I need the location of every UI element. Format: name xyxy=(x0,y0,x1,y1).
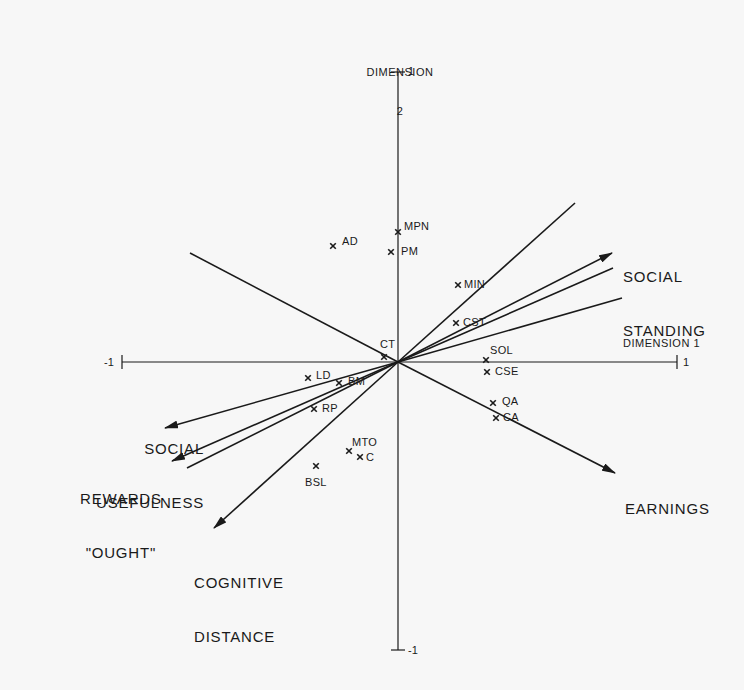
cognitive-distance-line2: DISTANCE xyxy=(194,628,284,646)
point-marker-qa xyxy=(490,400,496,406)
vector-unlabeled-vector-4 xyxy=(190,253,398,362)
vector-label-social-standing: SOCIAL STANDING xyxy=(623,232,706,358)
point-label-bsl: BSL xyxy=(305,477,327,488)
dimension-1-max-label: 1 xyxy=(683,357,689,368)
point-marker-ca xyxy=(493,415,499,421)
point-label-cst: CST xyxy=(463,317,486,328)
point-label-ca: CA xyxy=(503,412,519,423)
vector-label-rewards-ought: REWARDS "OUGHT" xyxy=(80,454,162,580)
point-label-ct: CT xyxy=(380,339,395,350)
point-label-cse: CSE xyxy=(495,366,519,377)
data-points xyxy=(305,229,499,469)
point-marker-ld xyxy=(305,375,311,381)
point-marker-ad xyxy=(330,243,336,249)
point-marker-cst xyxy=(453,320,459,326)
cognitive-distance-line1: COGNITIVE xyxy=(194,574,284,592)
point-marker-pm xyxy=(388,249,394,255)
point-label-ad: AD xyxy=(342,236,358,247)
dimension-2-title: DIMENSION 2 xyxy=(360,40,440,131)
point-label-bm: BM xyxy=(348,376,365,387)
dimension-2-max-label: 1 xyxy=(408,66,414,77)
earnings-line1: EARNINGS xyxy=(625,500,710,518)
rewards-ought-line2: "OUGHT" xyxy=(80,544,162,562)
property-vectors xyxy=(165,203,622,528)
point-marker-c xyxy=(357,454,363,460)
point-marker-bsl xyxy=(313,463,319,469)
point-marker-rp xyxy=(311,406,317,412)
point-label-qa: QA xyxy=(502,396,519,407)
rewards-ought-line1: REWARDS xyxy=(80,490,162,508)
point-marker-bm xyxy=(336,380,342,386)
point-marker-mto xyxy=(346,448,352,454)
point-label-c: C xyxy=(366,452,374,463)
point-label-min: MIN xyxy=(464,279,485,290)
point-label-pm: PM xyxy=(401,246,418,257)
vector-label-cognitive-distance: COGNITIVE DISTANCE xyxy=(194,538,284,664)
vector-label-earnings: EARNINGS xyxy=(625,464,710,536)
dimension-2-min-label: -1 xyxy=(408,645,418,656)
point-label-mpn: MPN xyxy=(404,221,429,232)
social-standing-line2: STANDING xyxy=(623,322,706,340)
point-marker-min xyxy=(455,282,461,288)
social-standing-line1: SOCIAL xyxy=(623,268,706,286)
point-label-sol: SOL xyxy=(490,345,513,356)
point-marker-cse xyxy=(484,369,490,375)
point-label-mto: MTO xyxy=(352,437,377,448)
dimension-2-title-line1: DIMENSION xyxy=(360,66,440,79)
dimension-1-min-label: -1 xyxy=(104,357,114,368)
point-label-rp: RP xyxy=(322,403,338,414)
point-label-ld: LD xyxy=(316,370,331,381)
dimension-2-title-line2: 2 xyxy=(360,105,440,118)
